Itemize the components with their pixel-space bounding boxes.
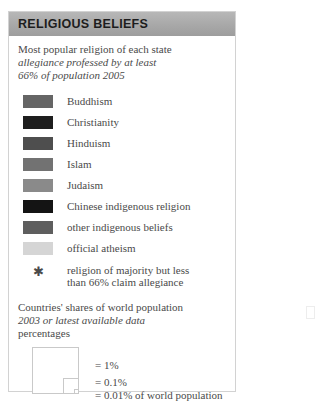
legend-item-buddhism: Buddhism bbox=[18, 91, 226, 112]
legend-item-chinese-indigenous-religion: Chinese indigenous religion bbox=[18, 196, 226, 217]
asterisk-note-text: religion of majority but less than 66% c… bbox=[67, 264, 189, 289]
legend-item-other-indigenous-beliefs: other indigenous beliefs bbox=[18, 217, 226, 238]
legend-label-buddhism: Buddhism bbox=[67, 95, 112, 107]
page-title: RELIGIOUS BELIEFS bbox=[18, 17, 148, 31]
legend-label-other-indigenous-beliefs: other indigenous beliefs bbox=[67, 221, 173, 233]
legend-list: Buddhism Christianity Hinduism Islam Jud… bbox=[18, 91, 226, 259]
color-swatch-christianity bbox=[23, 116, 53, 129]
color-swatch-chinese-indigenous-religion bbox=[23, 200, 53, 213]
legend-label-christianity: Christianity bbox=[67, 116, 119, 128]
color-swatch-other-indigenous-beliefs bbox=[23, 221, 53, 234]
shares-text: Countries' shares of world population 20… bbox=[18, 301, 226, 341]
color-swatch-official-atheism bbox=[23, 242, 53, 255]
legend-label-official-atheism: official atheism bbox=[67, 242, 136, 254]
legend-item-judaism: Judaism bbox=[18, 175, 226, 196]
population-square-scale: = 1% = 0.1% = 0.01% of world population bbox=[18, 347, 226, 399]
intro-line-1: Most popular religion of each state bbox=[18, 43, 226, 56]
legend-item-hinduism: Hinduism bbox=[18, 133, 226, 154]
shares-line-1: Countries' shares of world population bbox=[18, 301, 226, 314]
square-label-1-percent: = 1% bbox=[95, 359, 119, 371]
asterisk-note: ✱ religion of majority but less than 66%… bbox=[18, 264, 226, 289]
legend-label-hinduism: Hinduism bbox=[67, 137, 110, 149]
panel-body: Most popular religion of each state alle… bbox=[9, 36, 235, 399]
shares-line-2: 2003 or latest available data bbox=[18, 314, 226, 327]
intro-text: Most popular religion of each state alle… bbox=[18, 43, 226, 83]
square-0-01-percent bbox=[74, 389, 79, 394]
shares-line-3: percentages bbox=[18, 327, 226, 340]
legend-label-chinese-indigenous-religion: Chinese indigenous religion bbox=[67, 200, 190, 212]
color-swatch-judaism bbox=[23, 179, 53, 192]
legend-item-christianity: Christianity bbox=[18, 112, 226, 133]
intro-line-2: allegiance professed by at least bbox=[18, 56, 226, 69]
legend-label-judaism: Judaism bbox=[67, 179, 103, 191]
legend-item-official-atheism: official atheism bbox=[18, 238, 226, 259]
color-swatch-buddhism bbox=[23, 95, 53, 108]
color-swatch-islam bbox=[23, 158, 53, 171]
legend-label-islam: Islam bbox=[67, 158, 91, 170]
asterisk-note-line-2: than 66% claim allegiance bbox=[67, 276, 189, 289]
religious-beliefs-legend-panel: RELIGIOUS BELIEFS Most popular religion … bbox=[8, 11, 236, 392]
intro-line-3: 66% of population 2005 bbox=[18, 69, 226, 82]
color-swatch-hinduism bbox=[23, 137, 53, 150]
asterisk-note-line-1: religion of majority but less bbox=[67, 264, 189, 277]
square-label-0-01-percent: = 0.01% of world population bbox=[95, 389, 223, 401]
legend-item-islam: Islam bbox=[18, 154, 226, 175]
square-label-0-1-percent: = 0.1% bbox=[95, 376, 127, 388]
panel-header: RELIGIOUS BELIEFS bbox=[9, 12, 235, 36]
asterisk-icon: ✱ bbox=[23, 264, 53, 278]
